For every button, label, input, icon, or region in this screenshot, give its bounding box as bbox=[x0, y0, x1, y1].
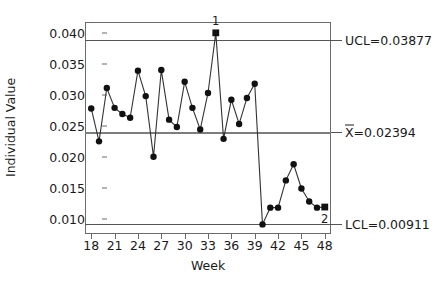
violation-marker bbox=[321, 204, 328, 211]
data-point-marker bbox=[298, 185, 304, 191]
data-point-marker bbox=[228, 97, 234, 103]
data-point-marker bbox=[252, 80, 258, 86]
data-point-marker bbox=[158, 67, 164, 73]
series-line bbox=[91, 33, 325, 225]
data-point-marker bbox=[143, 93, 149, 99]
data-point-marker bbox=[135, 67, 141, 73]
data-point-marker bbox=[111, 105, 117, 111]
data-point-marker bbox=[244, 95, 250, 101]
data-point-marker bbox=[181, 79, 187, 85]
data-point-marker bbox=[314, 204, 320, 210]
data-point-marker bbox=[306, 198, 312, 204]
data-point-marker bbox=[119, 111, 125, 117]
data-point-marker bbox=[267, 204, 273, 210]
data-point-marker bbox=[174, 124, 180, 130]
data-point-marker bbox=[150, 154, 156, 160]
data-point-marker bbox=[96, 138, 102, 144]
data-point-marker bbox=[197, 126, 203, 132]
data-point-marker bbox=[127, 115, 133, 121]
data-point-marker bbox=[205, 90, 211, 96]
data-point-marker bbox=[166, 116, 172, 122]
series-markers bbox=[88, 29, 328, 227]
violation-marker bbox=[212, 29, 219, 36]
control-chart-figure: Individual Value 0.0400.0350.0300.0250.0… bbox=[0, 0, 444, 296]
data-series bbox=[0, 0, 444, 296]
data-point-marker bbox=[259, 221, 265, 227]
data-point-marker bbox=[283, 177, 289, 183]
data-point-marker bbox=[104, 85, 110, 91]
violation-number-label: 2 bbox=[315, 212, 335, 226]
data-point-marker bbox=[88, 105, 94, 111]
data-point-marker bbox=[290, 161, 296, 167]
data-point-marker bbox=[220, 136, 226, 142]
violation-number-label: 1 bbox=[206, 14, 226, 28]
data-point-marker bbox=[236, 121, 242, 127]
data-point-marker bbox=[189, 105, 195, 111]
data-point-marker bbox=[275, 204, 281, 210]
